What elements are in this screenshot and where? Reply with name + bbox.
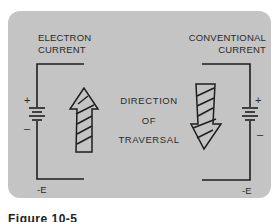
conventional-label-line1: CONVENTIONAL [186,32,266,44]
left-plus-sign: + [24,94,31,106]
left-circuit [29,64,84,179]
electron-flow-up-arrow-icon [70,88,98,152]
right-minus-sign: – [257,128,263,140]
conventional-label-line2: CURRENT [186,44,266,56]
electron-current-label: ELECTRON CURRENT [38,32,91,56]
direction-label: DIRECTION [104,95,194,106]
figure-caption: Figure 10-5 [8,212,78,222]
of-label: OF [104,115,194,126]
right-plus-sign: + [255,94,262,106]
left-terminal-label: -E [37,184,47,196]
conventional-current-label: CONVENTIONAL CURRENT [186,32,266,56]
electron-label-line1: ELECTRON [38,32,91,44]
right-terminal-label: -E [242,185,252,197]
conventional-flow-down-arrow-icon [191,84,221,149]
traversal-label: TRAVERSAL [104,134,194,145]
electron-label-line2: CURRENT [38,44,91,56]
left-minus-sign: – [24,122,30,134]
